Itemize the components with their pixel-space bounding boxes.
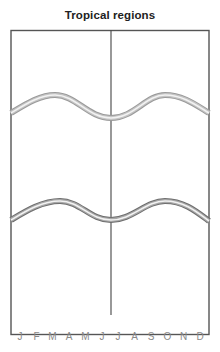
month-label: O [161, 331, 175, 342]
month-label: J [95, 331, 109, 342]
month-label: A [62, 331, 76, 342]
upper-curve [11, 95, 209, 118]
month-label: F [30, 331, 44, 342]
month-label: M [79, 331, 93, 342]
month-axis: J F M A M J J A S O N D [0, 331, 220, 345]
month-label: J [111, 331, 125, 342]
plot-frame [11, 31, 209, 335]
month-label: S [144, 331, 158, 342]
month-label: A [128, 331, 142, 342]
month-label: N [177, 331, 191, 342]
month-label: M [46, 331, 60, 342]
diagram-canvas [0, 0, 220, 352]
month-label: D [193, 331, 207, 342]
lower-curve [11, 201, 209, 221]
month-label: J [13, 331, 27, 342]
